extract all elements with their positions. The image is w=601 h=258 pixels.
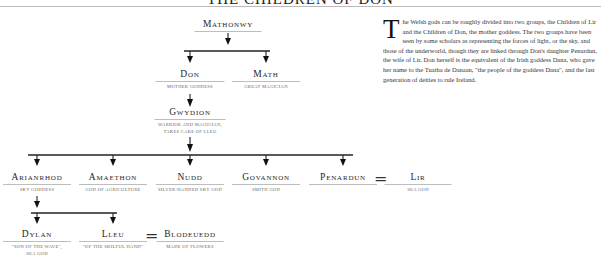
- node-underline: [3, 241, 71, 242]
- node-description: sea god: [3, 251, 71, 258]
- node-name: Penardun: [309, 172, 377, 183]
- node-nudd: Nudd Silver-handed sky god: [156, 172, 224, 194]
- node-underline: [232, 81, 300, 82]
- node-description: "Of the skilful hand": [79, 244, 147, 251]
- node-description: takes care of Lleu: [155, 129, 226, 136]
- node-amaethon: Amaethon God of agriculture: [79, 172, 147, 194]
- node-name: Blodeuedd: [157, 229, 224, 240]
- node-underline: [195, 31, 262, 32]
- node-underline: [156, 184, 224, 185]
- node-description: Warrior and magician,: [155, 122, 226, 129]
- node-lleu: Lleu "Of the skilful hand": [79, 229, 147, 251]
- article-text: he Welsh gods can be roughly divided int…: [383, 18, 597, 83]
- node-govannon: Govannon Smith god: [232, 172, 300, 194]
- node-underline: [79, 184, 147, 185]
- node-description: Great magician: [232, 84, 300, 91]
- node-name: Gwydion: [155, 107, 226, 118]
- drop-cap: T: [383, 18, 400, 40]
- node-description: Made of flowers: [157, 244, 224, 251]
- node-description: "Son of the wave",: [3, 244, 71, 251]
- node-name: Lir: [385, 172, 452, 183]
- node-name: Math: [232, 69, 300, 80]
- article-paragraph: The Welsh gods can be roughly divided in…: [383, 17, 598, 84]
- node-underline: [309, 184, 377, 185]
- node-underline: [155, 119, 226, 120]
- node-lir: Lir Sea god: [385, 172, 452, 194]
- node-dylan: Dylan "Son of the wave", sea god: [3, 229, 71, 257]
- node-name: Mathonwy: [195, 19, 262, 30]
- node-penardun: Penardun: [309, 172, 377, 187]
- node-description: Sky goddess: [3, 187, 71, 194]
- node-gwydion: Gwydion Warrior and magician, takes care…: [155, 107, 226, 135]
- node-name: Lleu: [79, 229, 147, 240]
- node-don: Don Mother goddess: [156, 69, 225, 91]
- node-description: Sea god: [385, 187, 452, 194]
- node-blodeuedd: Blodeuedd Made of flowers: [157, 229, 224, 251]
- node-name: Arianrhod: [3, 172, 71, 183]
- node-name: Govannon: [232, 172, 300, 183]
- node-math: Math Great magician: [232, 69, 300, 91]
- node-underline: [3, 184, 71, 185]
- node-name: Don: [156, 69, 225, 80]
- node-mathonwy: Mathonwy: [195, 19, 262, 34]
- node-arianrhod: Arianrhod Sky goddess: [3, 172, 71, 194]
- node-description: God of agriculture: [79, 187, 147, 194]
- node-name: Dylan: [3, 229, 71, 240]
- node-underline: [156, 81, 225, 82]
- node-underline: [385, 184, 452, 185]
- node-name: Amaethon: [79, 172, 147, 183]
- node-underline: [232, 184, 300, 185]
- node-description: Silver-handed sky god: [156, 187, 224, 194]
- node-underline: [157, 241, 224, 242]
- node-underline: [79, 241, 147, 242]
- node-description: Smith god: [232, 187, 300, 194]
- node-name: Nudd: [156, 172, 224, 183]
- node-description: Mother goddess: [156, 84, 225, 91]
